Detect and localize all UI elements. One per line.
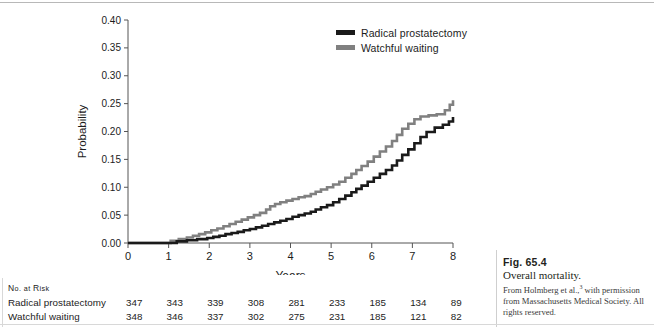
risk-row-label-radical-prostatectomy: Radical prostatectomy (8, 297, 126, 308)
chart-legend: Radical prostatectomy Watchful waiting (336, 26, 501, 56)
y-axis-tick-label: 0.40 (102, 15, 122, 26)
figure-page: 0.000.050.100.150.200.250.300.350.400123… (0, 0, 654, 327)
x-axis-tick-label: 0 (125, 250, 131, 262)
y-axis-tick-label: 0.30 (102, 70, 122, 81)
legend-label-radical-prostatectomy: Radical prostatectomy (361, 27, 467, 39)
risk-cell: 343 (167, 297, 208, 308)
risk-cell: 121 (410, 311, 451, 322)
y-axis-tick-label: 0.20 (102, 126, 122, 137)
x-axis-tick-label: 2 (206, 250, 212, 262)
risk-cell: 347 (126, 297, 167, 308)
risk-cell: 337 (207, 311, 248, 322)
no-at-risk-title: No. at Risk (8, 283, 488, 293)
x-axis-tick-label: 5 (328, 250, 334, 262)
x-axis-tick-label: 3 (247, 250, 253, 262)
risk-cell: 302 (248, 311, 289, 322)
risk-cell: 346 (167, 311, 208, 322)
risk-cell: 185 (370, 311, 411, 322)
risk-cell: 281 (288, 297, 329, 308)
risk-cells-watchful-waiting: 348 346 337 302 275 231 185 121 82 (126, 311, 491, 322)
figure-credit: From Holmberg et al.,3 with permission f… (503, 282, 649, 318)
legend-item-radical-prostatectomy: Radical prostatectomy (336, 26, 501, 39)
legend-swatch-watchful-waiting (336, 45, 355, 50)
risk-cell: 339 (207, 297, 248, 308)
x-axis-tick-label: 1 (166, 250, 172, 262)
x-axis-tick-label: 4 (287, 250, 293, 262)
risk-cell: 185 (370, 297, 411, 308)
risk-cell: 348 (126, 311, 167, 322)
figure-title: Overall mortality. (503, 269, 649, 281)
y-axis-tick-label: 0.05 (102, 210, 122, 221)
risk-cells-radical-prostatectomy: 347 343 339 308 281 233 185 134 89 (126, 297, 491, 308)
x-axis-tick-label: 6 (369, 250, 375, 262)
x-axis-tick-label: 7 (409, 250, 415, 262)
y-axis-tick-label: 0.25 (102, 98, 122, 109)
no-at-risk-table: No. at Risk Radical prostatectomy 347 34… (8, 283, 488, 325)
y-axis-title: Probability (76, 104, 88, 158)
legend-item-watchful-waiting: Watchful waiting (336, 41, 501, 54)
figure-number: Fig. 65.4 (503, 256, 649, 268)
risk-row-watchful-waiting: Watchful waiting 348 346 337 302 275 231… (8, 311, 488, 325)
y-axis-tick-label: 0.10 (102, 182, 122, 193)
series-line-watchful-waiting (128, 100, 453, 243)
risk-cell: 308 (248, 297, 289, 308)
figure-caption: Fig. 65.4 Overall mortality. From Holmbe… (503, 256, 649, 318)
risk-table-left-rule (2, 278, 3, 327)
risk-cell: 233 (329, 297, 370, 308)
risk-cell: 89 (451, 297, 492, 308)
risk-row-radical-prostatectomy: Radical prostatectomy 347 343 339 308 28… (8, 297, 488, 311)
risk-cell: 134 (410, 297, 451, 308)
y-axis-tick-label: 0.15 (102, 154, 122, 165)
y-axis-tick-label: 0.35 (102, 42, 122, 53)
risk-title-at: at (21, 284, 33, 293)
risk-row-label-watchful-waiting: Watchful waiting (8, 311, 126, 322)
legend-label-watchful-waiting: Watchful waiting (361, 42, 439, 54)
risk-cell: 231 (329, 311, 370, 322)
risk-cell: 82 (451, 311, 492, 322)
series-line-radical-prostatectomy (128, 117, 453, 243)
risk-cell: 275 (288, 311, 329, 322)
credit-text-before: From Holmberg et al., (503, 285, 579, 295)
y-axis-tick-label: 0.00 (102, 238, 122, 249)
x-axis-tick-label: 8 (450, 250, 456, 262)
x-axis-title: Years (275, 269, 305, 275)
legend-swatch-radical-prostatectomy (336, 30, 355, 35)
risk-title-isk: isk (39, 284, 49, 293)
